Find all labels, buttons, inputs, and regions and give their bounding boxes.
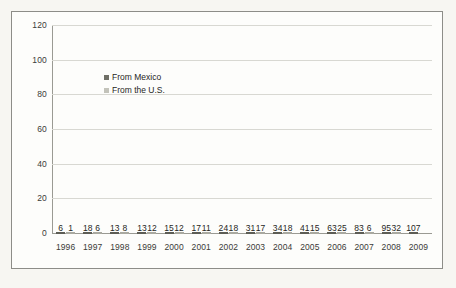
x-axis-tick-label-2006: 2006 bbox=[323, 242, 350, 256]
bar-value-label: 107 bbox=[406, 223, 420, 233]
bar-value-label: 15 bbox=[164, 223, 174, 233]
bar-value-label: 13 bbox=[110, 223, 120, 233]
legend-swatch-icon-mexico bbox=[104, 75, 109, 80]
bar-value-label: 95 bbox=[381, 223, 391, 233]
chart-legend: From Mexico From the U.S. bbox=[104, 72, 165, 96]
y-axis-tick-label: 100 bbox=[32, 55, 47, 65]
legend-swatch-icon-us bbox=[104, 88, 109, 93]
x-axis-tick-label-2008: 2008 bbox=[378, 242, 405, 256]
bar-value-label: 83 bbox=[354, 223, 364, 233]
bar-value-label: 31 bbox=[246, 223, 256, 233]
bar-value-label: 6 bbox=[367, 223, 372, 233]
y-axis-tick-label: 40 bbox=[37, 159, 47, 169]
x-axis-tick-label-2005: 2005 bbox=[296, 242, 323, 256]
x-axis-tick-label-2007: 2007 bbox=[351, 242, 378, 256]
x-axis-tick-label-1999: 1999 bbox=[133, 242, 160, 256]
legend-label-from-the-us: From the U.S. bbox=[112, 85, 165, 96]
bar-value-label: 18 bbox=[229, 223, 239, 233]
bar-value-label: 6 bbox=[95, 223, 100, 233]
chart-root: 020406080100120 611861381312151217112418… bbox=[0, 0, 456, 288]
x-axis-tick-label-2002: 2002 bbox=[215, 242, 242, 256]
bar-value-label: 6 bbox=[58, 223, 63, 233]
bar-value-label: 12 bbox=[174, 223, 184, 233]
bar-value-label: 11 bbox=[202, 223, 211, 233]
plot-area: 020406080100120 611861381312151217112418… bbox=[52, 26, 432, 234]
legend-item-from-mexico: From Mexico bbox=[104, 72, 165, 83]
bar-group-2000: 1512 bbox=[161, 26, 188, 234]
chart-frame: 020406080100120 611861381312151217112418… bbox=[11, 11, 443, 269]
bar-value-label: 32 bbox=[391, 223, 401, 233]
y-axis-tick-label: 20 bbox=[37, 193, 47, 203]
legend-label-from-mexico: From Mexico bbox=[112, 72, 161, 83]
x-axis-tick-label-2009: 2009 bbox=[405, 242, 432, 256]
bar-value-label: 24 bbox=[219, 223, 229, 233]
x-axis-tick-label-2001: 2001 bbox=[188, 242, 215, 256]
bar-value-label: 41 bbox=[300, 223, 310, 233]
bar-value-label: 17 bbox=[256, 223, 266, 233]
bar-group-2003: 3117 bbox=[242, 26, 269, 234]
x-axis-tick-label-2004: 2004 bbox=[269, 242, 296, 256]
bar-group-1998: 138 bbox=[106, 26, 133, 234]
bar-value-label: 1 bbox=[68, 223, 73, 233]
x-axis-tick-label-2000: 2000 bbox=[161, 242, 188, 256]
bar-value-label: 18 bbox=[83, 223, 93, 233]
bar-group-2004: 3418 bbox=[269, 26, 296, 234]
bar-value-label: 12 bbox=[147, 223, 157, 233]
x-axis-tick-label-1997: 1997 bbox=[79, 242, 106, 256]
x-axis-tick-label-2003: 2003 bbox=[242, 242, 269, 256]
legend-item-from-the-us: From the U.S. bbox=[104, 85, 165, 96]
bar-value-label: 13 bbox=[137, 223, 147, 233]
bar-value-label: 15 bbox=[310, 223, 320, 233]
bar-group-2006: 6325 bbox=[323, 26, 350, 234]
bar-value-label: 18 bbox=[283, 223, 293, 233]
bar-value-label: 17 bbox=[191, 223, 201, 233]
bar-group-1996: 61 bbox=[52, 26, 79, 234]
y-axis-tick-label: 120 bbox=[32, 20, 47, 30]
y-axis-tick-label: 60 bbox=[37, 124, 47, 134]
x-axis-tick-labels: 1996199719981999200020012002200320042005… bbox=[52, 242, 432, 256]
bar-group-2005: 4115 bbox=[296, 26, 323, 234]
bar-value-label: 63 bbox=[327, 223, 337, 233]
bar-value-label: 8 bbox=[122, 223, 127, 233]
bar-group-1997: 186 bbox=[79, 26, 106, 234]
bar-group-2008: 9532 bbox=[378, 26, 405, 234]
x-axis-tick-label-1998: 1998 bbox=[106, 242, 133, 256]
bar-group-2001: 1711 bbox=[188, 26, 215, 234]
bar-group-2002: 2418 bbox=[215, 26, 242, 234]
bar-group-2009: 107 bbox=[405, 26, 432, 234]
bar-value-label: 34 bbox=[273, 223, 283, 233]
bar-group-2007: 836 bbox=[351, 26, 378, 234]
bar-group-1999: 1312 bbox=[133, 26, 160, 234]
bars-layer: 6118613813121512171124183117341841156325… bbox=[52, 26, 432, 234]
x-axis-tick-label-1996: 1996 bbox=[52, 242, 79, 256]
y-axis-tick-label: 80 bbox=[37, 89, 47, 99]
y-axis-tick-label: 0 bbox=[42, 228, 47, 238]
bar-value-label: 25 bbox=[337, 223, 347, 233]
